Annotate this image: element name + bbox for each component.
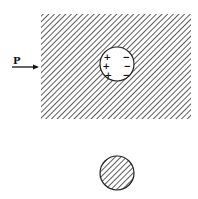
plus-charge-3: + [105, 70, 113, 80]
minus-charge-3: − [123, 70, 131, 80]
hatched-plug [100, 156, 134, 190]
force-label: P [13, 55, 21, 66]
diagram-canvas: + + + − − − P [0, 0, 198, 199]
